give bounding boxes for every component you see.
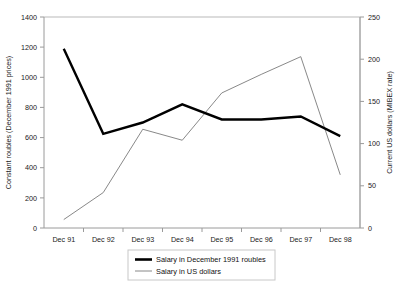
category-label: Dec 91 bbox=[52, 235, 75, 244]
right-tick-label: 150 bbox=[368, 97, 380, 106]
left-tick-label: 600 bbox=[25, 133, 37, 142]
right-tick-label: 200 bbox=[368, 55, 380, 64]
left-tick-label: 0 bbox=[33, 224, 37, 233]
category-label: Dec 95 bbox=[210, 235, 233, 244]
left-axis-title: Constant roubles (December 1991 prices) bbox=[4, 56, 13, 189]
category-label: Dec 97 bbox=[289, 235, 312, 244]
right-tick-label: 0 bbox=[368, 224, 372, 233]
right-axis-title: Current US dollars (MIBEX rate) bbox=[385, 71, 394, 174]
category-label: Dec 92 bbox=[92, 235, 115, 244]
legend-label-dollars: Salary in US dollars bbox=[156, 267, 221, 276]
chart-background bbox=[0, 0, 401, 288]
left-tick-label: 1000 bbox=[21, 73, 37, 82]
category-label: Dec 94 bbox=[171, 235, 194, 244]
chart-container: 0 200 400 600 800 1000 1200 1400 0 50 10… bbox=[0, 0, 401, 288]
category-label: Dec 93 bbox=[131, 235, 154, 244]
right-tick-label: 250 bbox=[368, 13, 380, 22]
category-label: Dec 96 bbox=[250, 235, 273, 244]
chart-legend: Salary in December 1991 roubles Salary i… bbox=[128, 250, 275, 280]
legend-label-roubles: Salary in December 1991 roubles bbox=[156, 255, 266, 264]
left-tick-label: 1400 bbox=[21, 13, 37, 22]
left-tick-label: 1200 bbox=[21, 43, 37, 52]
line-chart: 0 200 400 600 800 1000 1200 1400 0 50 10… bbox=[0, 0, 401, 288]
left-tick-label: 200 bbox=[25, 194, 37, 203]
left-tick-label: 400 bbox=[25, 163, 37, 172]
right-tick-label: 100 bbox=[368, 139, 380, 148]
right-tick-label: 50 bbox=[368, 181, 376, 190]
category-label: Dec 98 bbox=[329, 235, 352, 244]
left-tick-label: 800 bbox=[25, 103, 37, 112]
